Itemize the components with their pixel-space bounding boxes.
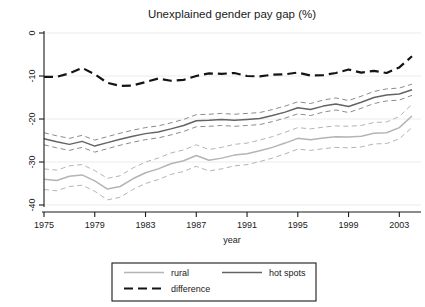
chart-legend: ruralhot spotsdifference	[112, 263, 316, 301]
chart-figure: Unexplained gender pay gap (%) 0-10-20-3…	[0, 0, 425, 307]
x-tick-label-0: 1975	[34, 220, 54, 230]
y-tick-label-2: -20	[27, 112, 37, 125]
x-axis-label: year	[223, 235, 241, 245]
y-tick-label-1: -10	[27, 69, 37, 82]
chart-title: Unexplained gender pay gap (%)	[148, 8, 316, 20]
legend-label-difference: difference	[171, 284, 210, 294]
y-tick-label-0: 0	[27, 30, 37, 35]
x-tick-label-4: 1991	[237, 220, 257, 230]
y-tick-label-4: -40	[27, 198, 37, 211]
x-tick-label-5: 1995	[288, 220, 308, 230]
x-tick-label-2: 1983	[136, 220, 156, 230]
legend-label-rural: rural	[171, 268, 189, 278]
x-tick-label-1: 1979	[85, 220, 105, 230]
x-tick-label-3: 1987	[186, 220, 206, 230]
y-tick-label-3: -30	[27, 155, 37, 168]
x-tick-label-6: 1999	[339, 220, 359, 230]
x-tick-label-7: 2003	[389, 220, 409, 230]
legend-label-hot-spots: hot spots	[269, 268, 306, 278]
figure-background	[0, 0, 425, 307]
